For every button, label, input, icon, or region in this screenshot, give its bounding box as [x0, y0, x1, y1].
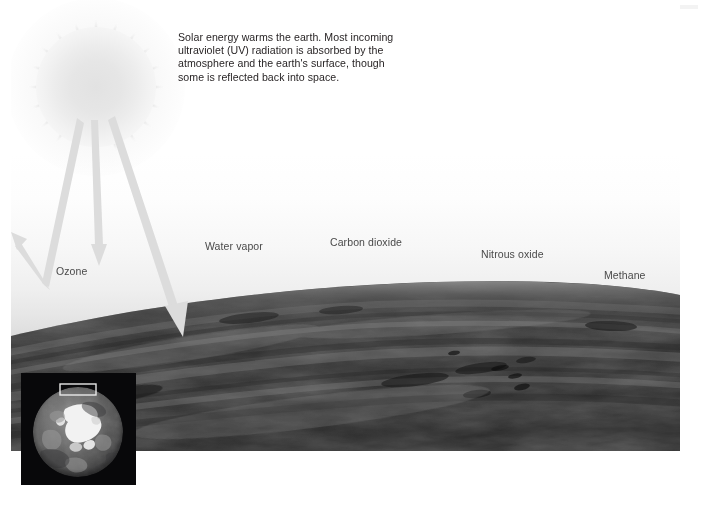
caption-line-4: some is reflected back into space. — [178, 71, 418, 84]
surface-absorbed-ray-arrow — [108, 116, 188, 337]
caption-line-1: Solar energy warms the earth. Most incom… — [178, 31, 418, 44]
gas-label-methane: Methane — [604, 269, 646, 281]
figure-caption: Solar energy warms the earth. Most incom… — [178, 31, 418, 84]
caption-line-3: atmosphere and the earth's surface, thou… — [178, 57, 418, 70]
figure-canvas: Ozone Water vapor Carbon dioxide Nitrous… — [0, 0, 706, 507]
gas-label-ozone: Ozone — [56, 265, 87, 277]
caption-line-2: ultraviolet (UV) radiation is absorbed b… — [178, 44, 418, 57]
absorbed-atmosphere-ray-arrow — [91, 120, 107, 266]
gas-label-nitrous-oxide: Nitrous oxide — [481, 248, 544, 260]
gas-label-water-vapor: Water vapor — [205, 240, 263, 252]
globe-inset — [21, 373, 136, 485]
gas-label-carbon-dioxide: Carbon dioxide — [330, 236, 402, 248]
